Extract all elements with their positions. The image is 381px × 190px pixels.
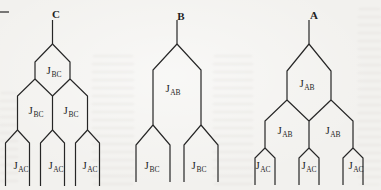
j-symbol: J bbox=[299, 77, 303, 89]
j-symbol: J bbox=[48, 159, 52, 171]
tree-c-jac-label-3: JAC bbox=[82, 160, 97, 174]
page-bleed-through bbox=[213, 55, 253, 185]
tree-a-jab-label-3: JAB bbox=[325, 125, 340, 139]
j-subscript: BC bbox=[196, 165, 206, 174]
tree-c-jac-label-1: JAC bbox=[13, 160, 28, 174]
j-symbol: J bbox=[255, 159, 259, 171]
j-symbol: J bbox=[192, 159, 196, 171]
tree-a-jab-label-2: JAB bbox=[277, 125, 292, 139]
tree-c-center-right-prong bbox=[53, 130, 65, 186]
tree-c-jac-label-2: JAC bbox=[48, 160, 63, 174]
tree-b-jab-label: JAB bbox=[165, 83, 180, 97]
j-symbol: J bbox=[82, 159, 86, 171]
page-bleed-through bbox=[92, 55, 134, 185]
j-symbol: J bbox=[277, 124, 281, 136]
j-symbol: J bbox=[301, 159, 305, 171]
j-symbol: J bbox=[29, 104, 33, 116]
tree-b-jbc-label-1: JBC bbox=[145, 160, 160, 174]
j-subscript: AC bbox=[353, 165, 363, 174]
j-symbol: J bbox=[325, 124, 329, 136]
j-subscript: BC bbox=[68, 110, 78, 119]
j-symbol: J bbox=[145, 159, 149, 171]
tree-a-jac-label-1: JAC bbox=[255, 160, 270, 174]
splitting-tree-figure: C B A JBC JBC JBC JAC JAC JAC JAB JBC JB… bbox=[0, 0, 381, 190]
tree-c-left-inner-prong bbox=[18, 130, 30, 186]
j-subscript: AB bbox=[170, 88, 180, 97]
j-symbol: J bbox=[165, 82, 169, 94]
tree-a-jab-label-1: JAB bbox=[299, 78, 314, 92]
tree-c-top-label: C bbox=[52, 9, 60, 20]
tree-a-top-label: A bbox=[310, 10, 318, 21]
j-symbol: J bbox=[348, 159, 352, 171]
j-subscript: AC bbox=[87, 165, 97, 174]
j-symbol: J bbox=[64, 104, 68, 116]
tree-a-jac-label-3: JAC bbox=[348, 160, 363, 174]
tree-b-jbc-label-2: JBC bbox=[192, 160, 207, 174]
j-subscript: AC bbox=[260, 165, 270, 174]
j-symbol: J bbox=[13, 159, 17, 171]
j-subscript: AC bbox=[306, 165, 316, 174]
j-subscript: AC bbox=[18, 165, 28, 174]
tree-c-jbc-label-1: JBC bbox=[47, 65, 62, 79]
j-subscript: BC bbox=[51, 70, 61, 79]
tree-c-jbc-label-3: JBC bbox=[64, 105, 79, 119]
j-subscript: BC bbox=[149, 165, 159, 174]
tree-b-branches bbox=[136, 20, 218, 182]
page-bleed-through bbox=[358, 8, 381, 185]
tree-a-right-inner-slant bbox=[309, 100, 331, 121]
j-subscript: AB bbox=[304, 83, 314, 92]
tree-a-jac-label-2: JAC bbox=[301, 160, 316, 174]
tree-b-top-label: B bbox=[177, 11, 184, 22]
j-subscript: BC bbox=[33, 110, 43, 119]
j-subscript: AC bbox=[53, 165, 63, 174]
tree-c-right-inner-prong bbox=[76, 130, 88, 186]
j-subscript: AB bbox=[282, 130, 292, 139]
j-symbol: J bbox=[47, 64, 51, 76]
j-subscript: AB bbox=[330, 130, 340, 139]
tree-c-jbc-label-2: JBC bbox=[29, 105, 44, 119]
tree-c-right-inner-slant bbox=[53, 79, 71, 96]
